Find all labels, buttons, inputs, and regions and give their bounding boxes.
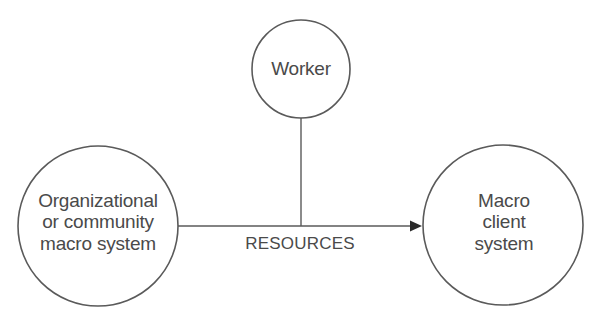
client-label-line-3: system <box>424 233 584 254</box>
resources-label: RESOURCES <box>230 234 370 254</box>
org-label-line-2: or community <box>18 211 178 232</box>
arrowhead-icon <box>410 221 422 232</box>
macro-client-system-label: Macro client system <box>424 190 584 254</box>
worker-label: Worker <box>252 58 350 79</box>
diagram-graphics <box>0 0 607 327</box>
diagram-canvas: Organizational or community macro system… <box>0 0 607 327</box>
client-label-line-1: Macro <box>424 190 584 211</box>
org-label-line-3: macro system <box>18 233 178 254</box>
org-macro-system-label: Organizational or community macro system <box>18 190 178 254</box>
client-label-line-2: client <box>424 211 584 232</box>
worker-label-line-1: Worker <box>252 58 350 79</box>
org-label-line-1: Organizational <box>18 190 178 211</box>
